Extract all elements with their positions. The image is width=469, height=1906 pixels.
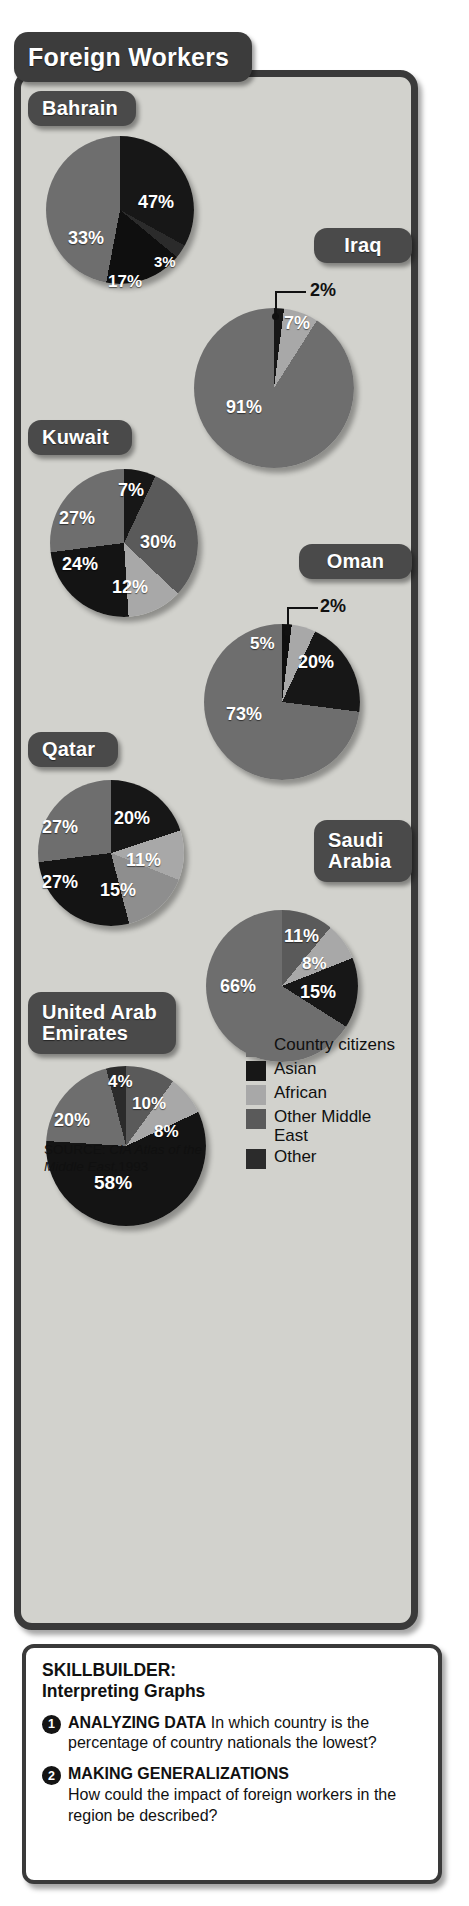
source-note: SOURCE: CIA Atlas of the Middle East,199… <box>44 1142 229 1176</box>
country-tab-saudi-arabia-label-line2: Arabia <box>328 851 391 872</box>
skillbuilder-question-2-label: MAKING GENERALIZATIONS <box>68 1765 289 1782</box>
pie-slice-label-saudi-citizens: 66% <box>220 976 256 997</box>
legend-item-country-citizens: Country citizens <box>246 1035 396 1057</box>
country-tab-qatar: Qatar <box>28 732 118 767</box>
pie-slice-label-qatar-middleeast: 15% <box>100 880 136 901</box>
pie-slice-label-saudi-middleeast: 11% <box>284 926 319 947</box>
country-tab-saudi-arabia: Saudi Arabia <box>314 820 412 882</box>
country-tab-uae-label-line1: United Arab <box>42 1002 157 1023</box>
country-tab-iraq: Iraq <box>314 228 412 263</box>
pie-slice-label-kuwait-other: 24% <box>62 554 98 575</box>
country-tab-qatar-label: Qatar <box>42 739 95 760</box>
skillbuilder-heading: SKILLBUILDER: Interpreting Graphs <box>42 1660 424 1703</box>
pie-slice-label-kuwait-asian: 7% <box>118 480 144 501</box>
skillbuilder-question-2-body: MAKING GENERALIZATIONS How could the imp… <box>68 1764 424 1826</box>
legend-label-country-citizens: Country citizens <box>274 1035 395 1054</box>
country-tab-iraq-label: Iraq <box>344 235 381 256</box>
pie-slice-label-uae-other: 4% <box>108 1072 133 1092</box>
pie-slice-label-bahrain-citizens: 33% <box>68 228 104 249</box>
pie-slice-label-qatar-african: 11% <box>126 850 161 871</box>
pie-slice-label-bahrain-other: 3% <box>154 253 176 270</box>
legend: Country citizens Asian African Other Mid… <box>246 1035 396 1171</box>
legend-swatch-other <box>246 1149 266 1169</box>
pie-slice-label-qatar-asian: 20% <box>114 808 150 829</box>
skillbuilder-question-2: 2 MAKING GENERALIZATIONS How could the i… <box>42 1764 424 1826</box>
pie-slice-label-kuwait-african: 12% <box>112 577 148 598</box>
pie-slice-label-uae-african: 8% <box>154 1122 179 1142</box>
page-title: Foreign Workers <box>14 32 252 82</box>
country-tab-saudi-arabia-label-line1: Saudi <box>328 830 383 851</box>
pie-slice-label-qatar-citizens: 27% <box>42 817 78 838</box>
skillbuilder-question-1-number: 1 <box>42 1715 61 1734</box>
legend-label-asian: Asian <box>274 1059 317 1078</box>
legend-swatch-other-middle-east <box>246 1109 266 1129</box>
skillbuilder-question-1-body: ANALYZING DATA In which country is the p… <box>68 1713 424 1755</box>
skillbuilder-question-1-label: ANALYZING DATA <box>68 1714 206 1731</box>
pie-slice-label-qatar-other: 27% <box>42 872 78 893</box>
legend-item-african: African <box>246 1083 396 1105</box>
source-year: 1993 <box>118 1159 148 1174</box>
pie-chart-iraq <box>194 308 354 468</box>
pie-chart-oman <box>204 624 360 780</box>
skillbuilder-question-2-number: 2 <box>42 1766 61 1785</box>
page-title-text: Foreign Workers <box>28 44 229 70</box>
pie-chart-qatar <box>38 780 184 926</box>
pie-slice-label-uae-middleeast: 10% <box>132 1094 166 1114</box>
skillbuilder-heading-line2: Interpreting Graphs <box>42 1681 424 1702</box>
legend-label-other: Other <box>274 1147 317 1166</box>
pie-slice-label-uae-citizens: 20% <box>54 1110 90 1131</box>
pie-slice-label-iraq-african: 7% <box>284 313 310 334</box>
foreign-workers-infographic: Foreign Workers Bahrain 47% 33% 3% 17% I… <box>14 32 454 1887</box>
pie-slice-label-saudi-asian: 15% <box>300 982 336 1003</box>
pie-slice-label-oman-african: 5% <box>250 634 275 654</box>
pie-slice-label-kuwait-citizens: 27% <box>59 508 95 529</box>
legend-swatch-country-citizens <box>246 1037 266 1057</box>
legend-label-other-middle-east: Other Middle East <box>274 1107 396 1145</box>
skillbuilder-question-1: 1 ANALYZING DATA In which country is the… <box>42 1713 424 1755</box>
country-tab-bahrain: Bahrain <box>28 91 136 126</box>
pie-slice-label-oman-asian: 20% <box>298 652 334 673</box>
legend-swatch-african <box>246 1085 266 1105</box>
country-tab-uae: United Arab Emirates <box>28 992 176 1054</box>
country-tab-uae-label-line2: Emirates <box>42 1023 128 1044</box>
pie-slice-label-oman-citizens: 73% <box>226 704 262 725</box>
legend-swatch-asian <box>246 1061 266 1081</box>
skillbuilder-question-2-text: How could the impact of foreign workers … <box>68 1786 396 1824</box>
country-tab-kuwait-label: Kuwait <box>42 427 109 448</box>
pie-slice-label-kuwait-middleeast: 30% <box>140 532 176 553</box>
leader-dot-iraq <box>272 313 279 320</box>
country-tab-oman-label: Oman <box>327 551 384 572</box>
skillbuilder-heading-line1: SKILLBUILDER: <box>42 1660 424 1681</box>
legend-item-asian: Asian <box>246 1059 396 1081</box>
legend-item-other-middle-east: Other Middle East <box>246 1107 396 1145</box>
pie-slice-label-bahrain-asian: 47% <box>138 192 174 213</box>
source-prefix: SOURCE: <box>44 1142 109 1157</box>
country-tab-kuwait: Kuwait <box>28 420 132 455</box>
leader-dot-oman <box>284 629 291 636</box>
legend-item-other: Other <box>246 1147 396 1169</box>
pie-slice-label-iraq-citizens: 91% <box>226 397 262 418</box>
pie-slice-label-saudi-african: 8% <box>302 954 327 974</box>
skillbuilder-box: SKILLBUILDER: Interpreting Graphs 1 ANAL… <box>22 1644 442 1884</box>
pie-slice-label-oman-other: 2% <box>320 596 346 617</box>
legend-label-african: African <box>274 1083 327 1102</box>
country-tab-oman: Oman <box>299 544 412 579</box>
country-tab-bahrain-label: Bahrain <box>42 98 118 119</box>
pie-slice-label-bahrain-middleeast: 17% <box>108 272 142 292</box>
pie-slice-label-iraq-asian: 2% <box>310 280 336 301</box>
